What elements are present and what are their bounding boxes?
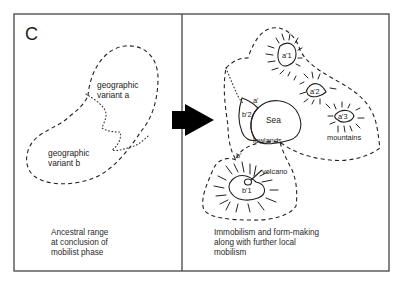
label-a3: a'3: [338, 112, 348, 121]
label-volcano: volcano: [262, 167, 287, 176]
label-a1: a'1: [282, 51, 292, 60]
label-b1: b'1: [242, 186, 252, 195]
left-caption-line2: at conclusion of: [51, 238, 109, 247]
label-lowlands: lowlands: [253, 136, 282, 145]
label-a-prime: a': [253, 96, 259, 105]
label-b-prime: b': [236, 151, 242, 160]
transition-arrow-icon: [172, 104, 214, 136]
variant-b-label-line2: variant b: [48, 158, 80, 168]
label-b2: b'2: [242, 110, 252, 119]
left-caption-line3: mobilist phase: [51, 248, 104, 257]
volcano-leader-line: [251, 170, 262, 180]
variant-b-label-line1: geographic: [48, 148, 89, 158]
panel-letter: C: [25, 24, 38, 44]
right-caption-line2: along with further local: [214, 238, 296, 247]
range-b-prime: [203, 142, 297, 220]
label-a2: a'2: [310, 87, 320, 96]
right-caption-line3: mobilism: [214, 248, 246, 257]
variant-a-label-line2: variant a: [97, 90, 129, 100]
left-caption-line1: Ancestral range: [51, 228, 109, 237]
variant-a-label-line1: geographic: [97, 80, 138, 90]
volcano-crater: [245, 179, 252, 185]
label-mountains: mountains: [327, 133, 361, 142]
biogeography-diagram: C geographic variant a geographic varian…: [0, 0, 401, 284]
ancestral-range: [27, 46, 158, 184]
label-sea: Sea: [266, 115, 281, 125]
right-caption-line1: Immobilism and form-making: [214, 228, 320, 237]
